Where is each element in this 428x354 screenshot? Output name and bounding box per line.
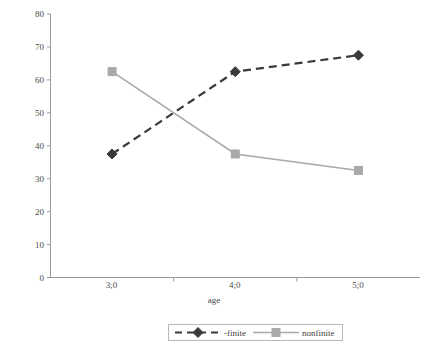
legend-marker — [193, 328, 203, 338]
legend-swatch — [252, 327, 300, 338]
legend-swatch — [174, 327, 222, 338]
data-point-marker — [353, 50, 363, 60]
x-axis-tick-labels: 3;04;05;0 — [50, 280, 420, 296]
legend-marker — [272, 329, 280, 337]
x-axis-label: age — [0, 295, 428, 305]
data-series — [108, 68, 362, 175]
x-axis-tick-label: 3;0 — [106, 280, 118, 290]
x-axis-tick-label: 4;0 — [229, 280, 241, 290]
axis-lines — [50, 14, 420, 278]
data-point-marker — [108, 68, 116, 76]
data-point-marker — [231, 150, 239, 158]
x-axis-tick-label: 5;0 — [352, 280, 364, 290]
legend-item[interactable]: nonfinite — [252, 325, 337, 340]
y-axis-ticks — [47, 14, 51, 278]
legend-item[interactable]: -finite — [174, 325, 248, 340]
legend-label: -finite — [224, 328, 246, 338]
data-series-group — [107, 50, 363, 174]
chart-legend: -finitenonfinite — [168, 324, 343, 341]
legend-label: nonfinite — [302, 328, 335, 338]
line-chart: proportion 01020304050607080 3;04;05;0 a… — [0, 0, 428, 354]
data-point-marker — [354, 166, 362, 174]
data-series — [107, 50, 363, 159]
